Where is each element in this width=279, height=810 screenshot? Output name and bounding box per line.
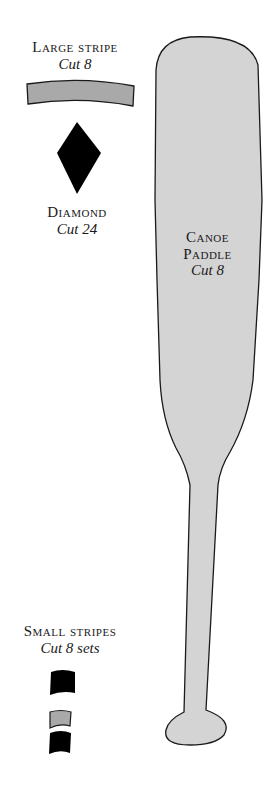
diamond-name: Diamond (47, 204, 107, 220)
canoe-paddle-shape (155, 37, 262, 745)
large-stripe-name: Large stripe (32, 39, 118, 55)
small-stripe-black-1 (50, 670, 75, 695)
diamond-label: Diamond Cut 24 (2, 203, 152, 237)
canoe-paddle-label: Canoe Paddle Cut 8 (155, 229, 260, 279)
small-stripe-gray (50, 711, 71, 729)
small-stripes-name: Small stripes (24, 623, 117, 639)
large-stripe-label: Large stripe Cut 8 (0, 38, 150, 72)
canoe-paddle-name-2: Paddle (155, 246, 260, 263)
canoe-paddle-cut: Cut 8 (155, 262, 260, 279)
diamond-cut: Cut 24 (2, 221, 152, 238)
large-stripe-shape (27, 80, 134, 106)
small-stripes-label: Small stripes Cut 8 sets (0, 622, 140, 656)
diamond-shape (57, 122, 101, 194)
large-stripe-cut: Cut 8 (0, 56, 150, 73)
small-stripe-black-2 (49, 731, 71, 754)
pattern-artwork (0, 0, 279, 810)
small-stripes-cut: Cut 8 sets (0, 640, 140, 657)
canoe-paddle-name-1: Canoe (155, 229, 260, 246)
